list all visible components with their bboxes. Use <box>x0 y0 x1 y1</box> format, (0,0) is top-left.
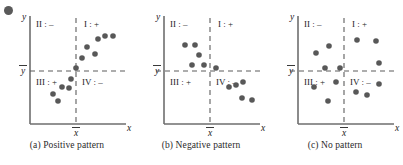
data-point <box>376 81 382 87</box>
data-point <box>192 42 198 48</box>
panel-b-negative-pattern: y x y x II : – I : + III : + IV : – <box>134 0 268 165</box>
data-point <box>55 98 61 104</box>
data-point <box>240 79 246 85</box>
data-point <box>353 89 359 95</box>
x-mean-label-b: x <box>207 128 213 138</box>
data-point <box>239 95 245 101</box>
y-axis-label-c: y <box>289 12 295 22</box>
data-point <box>326 43 332 49</box>
data-point <box>102 33 108 39</box>
data-point <box>337 65 343 71</box>
data-point <box>313 50 319 56</box>
data-point <box>213 65 219 71</box>
quadrant-2-label-a: II : – <box>36 19 54 29</box>
data-point <box>92 51 98 57</box>
datapoints-group-b <box>182 42 255 103</box>
data-point <box>73 65 79 71</box>
quadrant-1-label-b: I : + <box>218 19 233 29</box>
panel-c-no-pattern: y x y x II : – I : + III : + IV : – <box>268 0 402 165</box>
data-point <box>311 84 317 90</box>
statistics-quadrant-figure: y x y x II : – I : + III : + IV : – <box>0 0 403 165</box>
data-point <box>95 36 101 42</box>
data-point <box>233 82 239 88</box>
data-point <box>322 65 328 71</box>
x-axis-label-c: x <box>394 123 400 133</box>
data-point <box>110 33 116 39</box>
y-mean-label-b: y <box>154 66 160 76</box>
data-point <box>84 44 90 50</box>
data-point <box>333 79 339 85</box>
data-point <box>68 76 74 82</box>
y-mean-label-c: y <box>288 66 294 76</box>
quadrant-2-label-c: II : – <box>304 19 322 29</box>
data-point <box>325 98 331 104</box>
quadrant-4-label-c: IV : – <box>350 77 371 87</box>
quadrant-2-label-b: II : – <box>170 19 188 29</box>
quadrant-4-label-a: IV : – <box>82 77 103 87</box>
data-point <box>189 62 195 68</box>
data-point <box>226 84 232 90</box>
data-point <box>201 62 207 68</box>
data-point <box>249 97 255 103</box>
data-point <box>79 55 85 61</box>
scatter-plot-b: y x y x II : – I : + III : + IV : – <box>134 0 268 140</box>
x-mean-label-c: x <box>341 128 347 138</box>
x-axis-label-b: x <box>260 123 266 133</box>
data-point <box>196 52 202 58</box>
panel-b-caption: (b) Negative pattern <box>134 140 268 150</box>
data-point <box>354 37 360 43</box>
datapoints-group-a <box>50 33 116 104</box>
x-axis-label-a: x <box>126 123 132 133</box>
panel-a-positive-pattern: y x y x II : – I : + III : + IV : – <box>0 0 134 165</box>
quadrant-1-label-a: I : + <box>84 19 99 29</box>
y-mean-label-a: y <box>20 66 26 76</box>
data-point <box>376 60 382 66</box>
data-point <box>59 84 65 90</box>
y-axis-label-b: y <box>155 12 161 22</box>
quadrant-3-label-b: III : + <box>170 77 191 87</box>
quadrant-1-label-c: I : + <box>352 19 367 29</box>
data-point <box>364 92 370 98</box>
x-mean-label-a: x <box>73 128 79 138</box>
data-point <box>182 42 188 48</box>
scatter-plot-a: y x y x II : – I : + III : + IV : – <box>0 0 134 140</box>
scatter-plot-c: y x y x II : – I : + III : + IV : – <box>268 0 402 140</box>
data-point <box>66 85 72 91</box>
data-point <box>50 91 56 97</box>
panel-a-caption: (a) Positive pattern <box>0 140 134 150</box>
quadrant-3-label-a: III : + <box>36 77 57 87</box>
y-axis-label-a: y <box>21 12 27 22</box>
data-point <box>373 38 379 44</box>
panel-c-caption: (c) No pattern <box>268 140 402 150</box>
